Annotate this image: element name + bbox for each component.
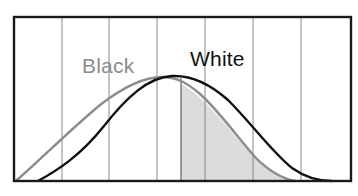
shaded-overlap-region — [181, 84, 296, 181]
chart-canvas — [0, 0, 358, 196]
distribution-chart: Black White — [0, 0, 358, 196]
label-black-series: Black — [82, 55, 134, 76]
label-white-series: White — [190, 48, 245, 69]
